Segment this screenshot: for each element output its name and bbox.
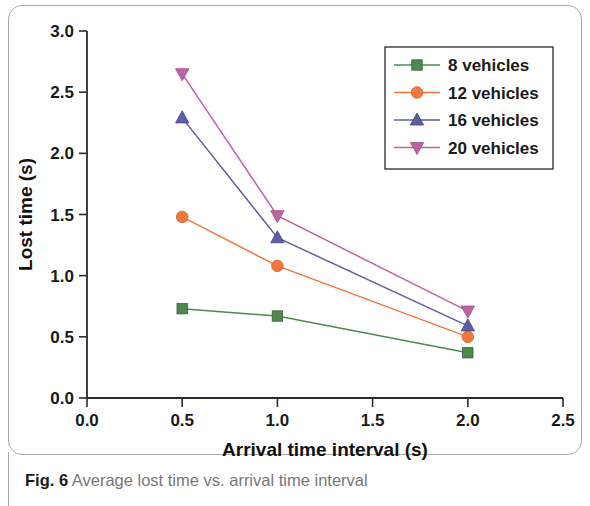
y-tick-label: 3.0 — [50, 22, 74, 41]
chart-legend[interactable]: 8 vehicles12 vehicles16 vehicles20 vehic… — [385, 47, 553, 169]
caption-left-rule — [8, 452, 9, 506]
x-tick-label: 1.0 — [266, 411, 290, 430]
x-tick-label: 1.5 — [361, 411, 385, 430]
x-tick-label: 0.0 — [75, 411, 99, 430]
figure-caption-text: Average lost time vs. arrival time inter… — [72, 471, 368, 489]
x-tick-label: 0.5 — [170, 411, 194, 430]
marker-triangle-down — [271, 211, 284, 223]
x-tick-label: 2.5 — [551, 411, 575, 430]
marker-circle — [272, 260, 284, 272]
y-tick-label: 2.5 — [50, 83, 74, 102]
x-tick-label: 2.0 — [456, 411, 480, 430]
y-tick-label: 0.5 — [50, 328, 74, 347]
y-tick-label: 1.5 — [50, 206, 74, 225]
line-chart: 0.00.51.01.52.02.53.00.00.51.01.52.02.5A… — [0, 0, 590, 460]
y-tick-label: 2.0 — [50, 144, 74, 163]
marker-square — [412, 60, 422, 70]
marker-circle — [411, 87, 423, 99]
marker-square — [272, 311, 282, 321]
x-axis-title: Arrival time interval (s) — [222, 439, 428, 460]
legend-label: 20 vehicles — [448, 139, 539, 158]
marker-square — [177, 303, 187, 313]
figure-number: Fig. 6 — [25, 471, 68, 489]
y-tick-label: 0.0 — [50, 389, 74, 408]
marker-triangle-up — [176, 111, 189, 123]
marker-square — [463, 348, 473, 358]
y-axis-title: Lost time (s) — [15, 158, 36, 271]
figure-caption: Fig. 6 Average lost time vs. arrival tim… — [25, 470, 570, 490]
series-1 — [177, 303, 473, 357]
legend-label: 8 vehicles — [448, 56, 529, 75]
legend-label: 16 vehicles — [448, 111, 539, 130]
series-2 — [176, 211, 473, 342]
legend-label: 12 vehicles — [448, 84, 539, 103]
marker-circle — [176, 211, 188, 223]
marker-triangle-up — [461, 319, 474, 331]
marker-triangle-down — [176, 69, 189, 81]
series-line — [182, 309, 468, 353]
series-line — [182, 217, 468, 337]
figure-page: 0.00.51.01.52.02.53.00.00.51.01.52.02.5A… — [0, 0, 590, 506]
marker-circle — [462, 331, 474, 343]
marker-triangle-down — [461, 306, 474, 318]
y-tick-label: 1.0 — [50, 267, 74, 286]
